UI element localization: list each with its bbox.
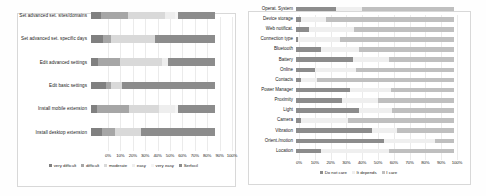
legend-item[interactable]: I care	[382, 170, 397, 175]
bar-segment	[391, 88, 454, 93]
bar-segment	[178, 12, 215, 20]
bar-row: Edit advanced settings	[0, 51, 219, 74]
bar-segment	[348, 118, 454, 123]
bar-segment	[178, 105, 215, 113]
bar-segment	[392, 108, 454, 113]
legend-item[interactable]: difficult	[81, 163, 99, 168]
stacked-bar	[296, 47, 454, 52]
bar-row: Vibration	[243, 126, 466, 136]
right-x-axis: 0%10%20%30%40%50%60%70%80%90%100%	[299, 160, 457, 167]
bar-row: Power Manager	[243, 85, 466, 95]
stacked-bar	[296, 88, 454, 93]
bar-row: Battery	[243, 55, 466, 65]
bar-segment	[296, 98, 342, 103]
bar-segment	[317, 78, 454, 83]
bar-segment	[397, 128, 454, 133]
bar-segment	[350, 88, 391, 93]
bar-segment	[296, 108, 359, 113]
bar-segment	[321, 47, 359, 52]
bar-segment	[111, 82, 122, 90]
category-label: Orient./motion	[243, 139, 296, 144]
stacked-bar	[296, 57, 454, 62]
bar-row: Online	[243, 65, 466, 75]
bar-segment	[298, 37, 341, 42]
bar-segment	[354, 27, 454, 32]
bar-segment	[301, 78, 317, 83]
stacked-bar	[296, 17, 454, 22]
stacked-bar	[296, 128, 454, 133]
legend-item[interactable]: moderate	[104, 163, 127, 168]
bar-row: Camera	[243, 116, 466, 126]
stacked-bar	[296, 98, 454, 103]
left-x-axis: 0%10%20%30%40%50%60%70%80%90%100%	[108, 153, 232, 160]
axis-tick-label: 60%	[390, 160, 398, 165]
bar-segment	[128, 12, 165, 20]
axis-tick-label: 10%	[311, 160, 319, 165]
stacked-bar	[91, 58, 215, 66]
legend-label: It depends	[357, 170, 377, 175]
bar-segment	[301, 118, 348, 123]
bar-row: Set advanced set. specific days	[0, 27, 219, 50]
bar-segment	[384, 139, 435, 144]
bar-segment	[120, 58, 162, 66]
bar-row: Light	[243, 105, 466, 115]
right-legend: Do not careIt dependsI care	[320, 170, 397, 175]
bar-segment	[353, 57, 389, 62]
stacked-bar	[296, 139, 454, 144]
legend-item[interactable]: Serfocil	[179, 163, 198, 168]
bar-segment	[91, 58, 98, 66]
axis-tick-label: 0%	[105, 153, 111, 158]
right-bar-rows: Operat. SystemDevice storageWeb notifica…	[243, 4, 466, 156]
category-label: Light	[243, 108, 296, 113]
left-bar-rows: Set advanced set. sites/domainsSet advan…	[0, 4, 219, 144]
bar-segment	[389, 149, 454, 154]
axis-tick-label: 90%	[437, 160, 445, 165]
bar-row: Location	[243, 146, 466, 156]
bar-row: Install mobile extension	[0, 97, 219, 120]
legend-swatch-icon	[320, 171, 323, 174]
stacked-bar	[296, 108, 454, 113]
legend-swatch-icon	[49, 164, 52, 167]
bar-segment	[159, 105, 175, 113]
bar-segment	[97, 105, 129, 113]
bar-segment	[296, 88, 350, 93]
category-label: Install desktop extension	[0, 130, 91, 135]
category-label: Edit advanced settings	[0, 60, 91, 65]
axis-tick-label: 10%	[116, 153, 124, 158]
bar-segment	[141, 128, 215, 136]
axis-tick-label: 20%	[326, 160, 334, 165]
legend-item[interactable]: very easy	[151, 163, 174, 168]
bar-row: Proximity	[243, 95, 466, 105]
stacked-bar	[296, 27, 454, 32]
axis-tick-label: 80%	[421, 160, 429, 165]
legend-item[interactable]: It depends	[352, 170, 377, 175]
stacked-bar	[91, 35, 215, 43]
bar-segment	[91, 35, 103, 43]
category-label: Set advanced set. specific days	[0, 36, 91, 41]
bar-segment	[111, 35, 156, 43]
stacked-bar	[296, 7, 454, 12]
category-label: Contacts	[243, 78, 296, 83]
bar-segment	[296, 47, 321, 52]
stacked-bar	[296, 68, 454, 73]
legend-item[interactable]: easy	[132, 163, 146, 168]
legend-label: I care	[386, 170, 397, 175]
legend-item[interactable]: Do not care	[320, 170, 347, 175]
bar-segment	[296, 27, 309, 32]
bar-row: Operat. System	[243, 4, 466, 14]
stacked-bar	[91, 128, 215, 136]
bar-segment	[326, 17, 454, 22]
bar-segment	[165, 12, 175, 20]
bar-segment	[342, 98, 378, 103]
legend-item[interactable]: very difficult	[49, 163, 76, 168]
legend-label: Serfocil	[184, 163, 198, 168]
axis-tick-label: 100%	[452, 160, 463, 165]
axis-tick-label: 50%	[374, 160, 382, 165]
left-legend: very difficultdifficultmoderateeasyvery …	[49, 163, 198, 168]
axis-tick-label: 30%	[342, 160, 350, 165]
left-chart-panel: Set advanced set. sites/domainsSet advan…	[0, 0, 243, 196]
bar-segment	[435, 139, 454, 144]
category-label: Set advanced set. sites/domains	[0, 13, 91, 18]
bar-row: Edit basic settings	[0, 74, 219, 97]
legend-label: difficult	[86, 163, 99, 168]
